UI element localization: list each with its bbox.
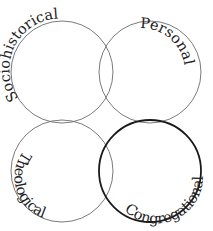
circle-personal (99, 21, 201, 123)
label-personal: Personal (140, 15, 198, 67)
label-sociohistorical: Sociohistorical (0, 5, 59, 105)
label-congregational: Congregational (122, 175, 206, 226)
label-theological: Theological (11, 149, 48, 221)
circle-sociohistorical (11, 21, 113, 123)
venn-diagram: Sociohistorical Personal Theological Con… (0, 0, 213, 231)
